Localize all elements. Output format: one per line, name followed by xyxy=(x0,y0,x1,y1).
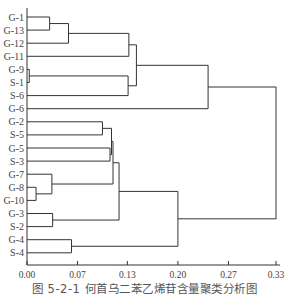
x-tick-label: 0.07 xyxy=(69,270,86,280)
x-tick-label: 0.33 xyxy=(268,270,285,280)
x-tick-label: 0.27 xyxy=(220,270,237,280)
leaf-label: G-7 xyxy=(8,169,24,180)
x-tick-label: 0.00 xyxy=(19,270,36,280)
figure-caption: 图 5-2-1 何首乌二苯乙烯苷含量聚类分析图 xyxy=(0,280,289,296)
leaf-label: G-6 xyxy=(8,103,24,114)
leaf-label: S-5 xyxy=(10,129,24,140)
leaf-labels: G-1G-13G-12G-11G-9S-1S-6G-6G-2S-5G-5S-3G… xyxy=(3,12,24,259)
leaf-label: G-12 xyxy=(3,38,24,49)
leaf-label: G-11 xyxy=(4,51,24,62)
leaf-label: G-5 xyxy=(8,143,24,154)
leaf-label: S-6 xyxy=(10,90,24,101)
leaf-label: S-2 xyxy=(10,221,24,232)
x-tick-label: 0.13 xyxy=(119,270,136,280)
leaf-label: G-2 xyxy=(8,116,24,127)
leaf-label: S-3 xyxy=(10,156,24,167)
leaf-label: G-4 xyxy=(8,234,24,245)
leaf-label: G-3 xyxy=(8,208,24,219)
dendrogram-chart: G-1G-13G-12G-11G-9S-1S-6G-6G-2S-5G-5S-3G… xyxy=(0,0,289,298)
leaf-label: G-8 xyxy=(8,182,24,193)
leaf-label: G-1 xyxy=(8,12,24,23)
leaf-label: S-1 xyxy=(10,77,24,88)
x-tick-label: 0.20 xyxy=(170,270,187,280)
leaf-label: G-13 xyxy=(3,25,24,36)
leaf-label: G-9 xyxy=(8,64,24,75)
leaf-label: G-10 xyxy=(3,195,24,206)
leaf-label: S-4 xyxy=(10,247,24,258)
dendrogram-links xyxy=(27,17,276,253)
